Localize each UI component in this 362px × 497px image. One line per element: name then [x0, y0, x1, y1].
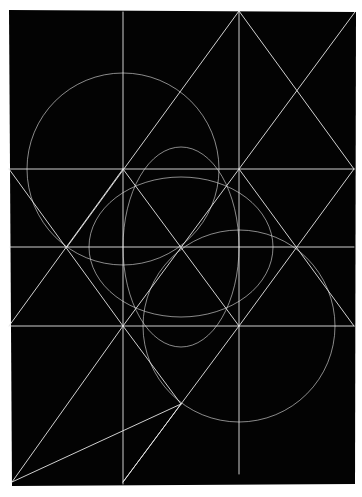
- geometric-artwork: [0, 0, 362, 497]
